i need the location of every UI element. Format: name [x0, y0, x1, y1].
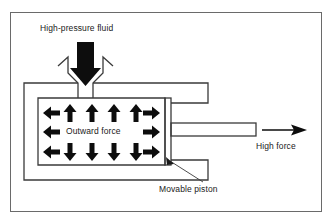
arrow-up-icon — [108, 104, 121, 122]
arrow-right-icon — [143, 126, 160, 139]
inlet-funnel-right — [93, 57, 113, 98]
piston-leader-arrowhead — [166, 157, 174, 165]
arrow-down-icon — [108, 143, 121, 161]
arrow-left-icon — [43, 126, 60, 139]
output-force-arrow-icon — [262, 125, 307, 136]
piston-leader-line — [170, 161, 203, 182]
chamber-label: Outward force — [66, 127, 121, 136]
cylinder-top-wall — [93, 83, 208, 103]
inlet-label: High-pressure fluid — [40, 24, 113, 33]
arrow-down-icon — [86, 143, 99, 161]
chamber-arrow-row-top — [43, 104, 160, 122]
chamber-arrow-row-bottom — [43, 143, 160, 161]
arrow-right-icon — [143, 146, 160, 159]
piston — [165, 98, 171, 165]
piston-label: Movable piston — [159, 185, 218, 194]
arrow-down-icon — [64, 143, 77, 161]
inlet-funnel-left — [58, 57, 78, 98]
arrow-left-icon — [43, 146, 60, 159]
arrow-down-icon — [130, 143, 143, 161]
figure-canvas: High-pressure fluid Outward force Movabl… — [0, 0, 333, 224]
arrow-right-icon — [143, 107, 160, 120]
arrow-up-icon — [64, 104, 77, 122]
arrow-up-icon — [86, 104, 99, 122]
piston-rod — [171, 123, 256, 136]
arrow-up-icon — [130, 104, 143, 122]
arrow-left-icon — [43, 107, 60, 120]
output-force-label: High force — [256, 142, 296, 151]
